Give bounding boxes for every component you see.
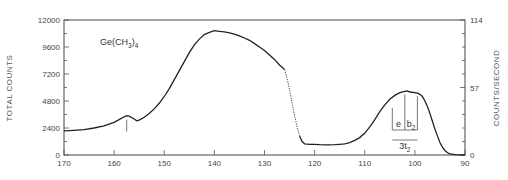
x-tick-label: 130 [258, 159, 272, 168]
x-axis: 17016015014013012011010090 [57, 150, 470, 168]
compound-label: Ge(CH3)4 [100, 37, 139, 49]
x-tick-label: 170 [57, 159, 71, 168]
y-tick-label: 9600 [42, 43, 60, 52]
y-tick-label: 2400 [42, 124, 60, 133]
compound-label-sub2: 4 [135, 42, 139, 49]
bracket-label: 3t2 [399, 141, 411, 153]
x-tick-label: 90 [461, 159, 470, 168]
y2-tick-label: 57 [470, 84, 479, 93]
y-tick-label: 0 [56, 151, 61, 160]
bracket-label: b2 [407, 119, 416, 131]
y2-tick-label: 0 [470, 151, 475, 160]
y2-axis-title: COUNTS/SECOND [492, 50, 501, 127]
y-tick-label: 12000 [38, 16, 61, 25]
series-line [285, 70, 300, 136]
x-tick-label: 160 [107, 159, 121, 168]
y-tick-label: 4800 [42, 97, 60, 106]
bracket-label: e [396, 119, 401, 129]
x-tick-label: 100 [408, 159, 422, 168]
peak-markers [127, 94, 418, 131]
series-line [64, 31, 285, 131]
series-line [300, 91, 465, 155]
bracket-label-sub: 2 [412, 124, 416, 131]
y-axis-right: 057114 [460, 16, 483, 160]
x-tick-label: 120 [308, 159, 322, 168]
bracket-label-base: e [396, 119, 401, 129]
x-tick-label: 140 [208, 159, 222, 168]
x-tick-label: 150 [158, 159, 172, 168]
y2-tick-label: 114 [470, 16, 483, 25]
chart: 17016015014013012011010090 0240048007200… [0, 0, 508, 180]
series-group [64, 31, 465, 155]
y-tick-label: 7200 [42, 70, 60, 79]
x-tick-label: 110 [358, 159, 371, 168]
bracket-label-sub: 2 [407, 146, 411, 153]
compound-label-base: Ge(CH [100, 37, 128, 47]
y-axis-title: TOTAL COUNTS [5, 55, 14, 122]
